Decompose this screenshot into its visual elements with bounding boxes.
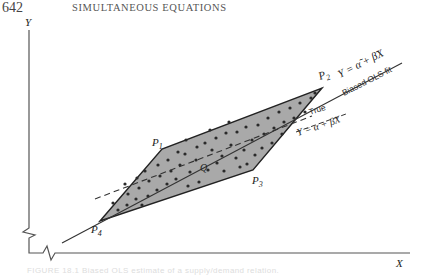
x-axis-label: X — [395, 257, 404, 269]
point-p3-label: P3 — [251, 174, 263, 189]
y-axis-label: Y — [25, 16, 33, 28]
true-line-label: True — [308, 102, 328, 117]
point-p4-label: P4 — [90, 223, 102, 238]
svg-text:P4: P4 — [90, 223, 102, 238]
point-q-label: Q — [200, 162, 208, 173]
svg-text:P2: P2 — [316, 67, 332, 85]
point-p1-label: P1 — [151, 136, 163, 151]
point-p2-label: P2 — [316, 67, 332, 85]
true-line-equation: Y = α + βX — [295, 113, 342, 138]
svg-text:P1: P1 — [151, 136, 163, 151]
svg-text:P3: P3 — [251, 174, 263, 189]
figure-caption: FIGURE 18.1 Biased OLS estimate of a sup… — [27, 266, 279, 275]
